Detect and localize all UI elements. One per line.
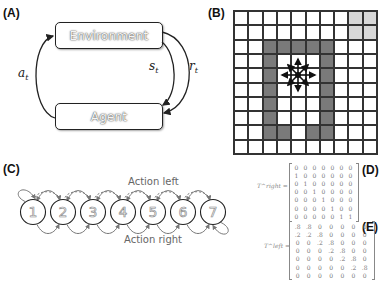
matrix-cell: 0 [314, 272, 325, 279]
matrix-cell: 0 [337, 223, 348, 230]
matrix-cell: 0 [310, 196, 319, 203]
matrix-cell: 0 [326, 272, 337, 279]
matrix-cell: 0 [303, 239, 314, 246]
matrix-row: 0000000 [292, 271, 370, 279]
matrix-cell: 0 [337, 205, 346, 212]
matrix-cell: 0 [310, 180, 319, 187]
matrix-row: 00000.2.8 [292, 263, 370, 271]
state-number: 1 [29, 204, 38, 220]
matrix-cell: 0 [301, 172, 310, 179]
matrix-cell: 0 [328, 164, 337, 171]
matrix-cell: 0 [301, 213, 310, 220]
matrix-cell: 0 [303, 255, 314, 262]
matrix-cell: 0 [326, 223, 337, 230]
matrix-row: .2.2.80000 [292, 230, 370, 238]
matrix-cell: 0 [348, 223, 359, 230]
matrix-cell: .2 [348, 264, 359, 271]
matrix-row: 0000.2.80 [292, 255, 370, 263]
matrix-cell: 0 [346, 205, 355, 212]
matrix-cell: 0 [310, 205, 319, 212]
matrix-d-right-bracket [356, 163, 359, 222]
matrix-cell: 0 [337, 172, 346, 179]
matrix-cell: .2 [292, 231, 303, 238]
state-number: 5 [149, 204, 158, 220]
matrix-cell: 1 [319, 196, 328, 203]
matrix-cell: .8 [326, 239, 337, 246]
matrix-cell: 0 [337, 239, 348, 246]
matrix-cell: 1 [301, 180, 310, 187]
matrix-row: 0001000 [292, 196, 355, 204]
matrix-cell: 0 [292, 272, 303, 279]
matrix-cell: 0 [359, 272, 370, 279]
matrix-cell: 0 [319, 172, 328, 179]
matrix-cell: 0 [337, 188, 346, 195]
matrix-cell: 0 [301, 205, 310, 212]
matrix-row: 00.2.8000 [292, 238, 370, 246]
matrix-row: .8.800000 [292, 222, 370, 230]
matrix-row: 0010000 [292, 188, 355, 196]
matrix-cell: .2 [326, 247, 337, 254]
matrix-cell: 0 [348, 239, 359, 246]
state-number: 7 [209, 204, 218, 220]
matrix-cell: 0 [337, 164, 346, 171]
matrix-cell: 0 [337, 196, 346, 203]
matrix-cell: 0 [346, 188, 355, 195]
matrix-cell: 0 [337, 272, 348, 279]
matrix-cell: 0 [319, 213, 328, 220]
matrix-cell: 0 [301, 196, 310, 203]
matrix-cell: 0 [346, 164, 355, 171]
matrix-cell: 0 [314, 264, 325, 271]
matrix-cell: 0 [348, 231, 359, 238]
panel-d-label: (D) [362, 163, 379, 177]
matrix-cell: 0 [348, 272, 359, 279]
matrix-row: 1000000 [292, 171, 355, 179]
matrix-cell: 0 [292, 213, 301, 220]
matrix-e-right-bracket [372, 221, 375, 280]
matrix-cell: 0 [319, 180, 328, 187]
matrix-t-right: 0000000100000001000000010000000100000001… [292, 163, 355, 220]
matrix-cell: 0 [359, 239, 370, 246]
matrix-cell: 0 [319, 164, 328, 171]
matrix-cell: 0 [346, 172, 355, 179]
matrix-cell: 1 [337, 213, 346, 220]
matrix-cell: 0 [310, 213, 319, 220]
matrix-cell: 0 [292, 239, 303, 246]
matrix-row: 0000000 [292, 163, 355, 171]
matrix-cell: 0 [292, 180, 301, 187]
matrix-cell: 1 [328, 205, 337, 212]
matrix-row: 000.2.800 [292, 247, 370, 255]
matrix-cell: 0 [314, 255, 325, 262]
matrix-cell: .2 [337, 255, 348, 262]
matrix-cell: 0 [319, 205, 328, 212]
matrix-cell: 0 [314, 223, 325, 230]
matrix-cell: .8 [314, 231, 325, 238]
matrix-cell: 0 [292, 205, 301, 212]
matrix-cell: 0 [359, 231, 370, 238]
matrix-row: 0000011 [292, 212, 355, 220]
matrix-cell: 0 [303, 272, 314, 279]
matrix-cell: 0 [314, 247, 325, 254]
matrix-cell: .8 [303, 223, 314, 230]
matrix-cell: 0 [326, 255, 337, 262]
matrix-cell: 0 [337, 180, 346, 187]
matrix-cell: 0 [326, 231, 337, 238]
matrix-cell: 0 [326, 264, 337, 271]
matrix-cell: 0 [359, 255, 370, 262]
state-number: 2 [59, 204, 68, 220]
matrix-cell: 0 [292, 247, 303, 254]
matrix-cell: 0 [348, 247, 359, 254]
matrix-cell: 0 [359, 247, 370, 254]
matrix-cell: 0 [292, 255, 303, 262]
matrix-t-left: .8.800000.2.2.8000000.2.8000000.2.800000… [292, 222, 370, 279]
matrix-cell: 0 [337, 264, 348, 271]
matrix-cell: 0 [346, 196, 355, 203]
matrix-cell: 0 [328, 196, 337, 203]
matrix-cell: 0 [310, 172, 319, 179]
t-left-label: T^left = [264, 242, 290, 249]
matrix-cell: 1 [346, 213, 355, 220]
matrix-cell: .8 [348, 255, 359, 262]
matrix-cell: .8 [337, 247, 348, 254]
state-number: 3 [89, 204, 98, 220]
matrix-cell: 1 [310, 188, 319, 195]
matrix-cell: 0 [328, 213, 337, 220]
